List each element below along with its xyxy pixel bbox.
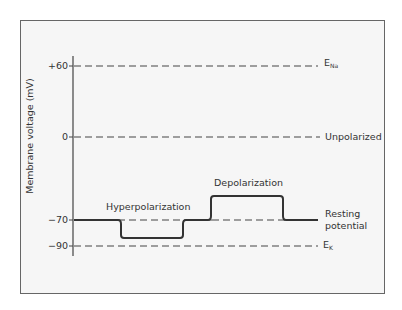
resting-label-line1: Resting — [325, 209, 360, 219]
tick-label-plus60: +60 — [38, 61, 68, 71]
tick-label-0: 0 — [38, 132, 68, 142]
hyperpolarization-label: Hyperpolarization — [106, 202, 190, 212]
voltage-plot — [0, 0, 402, 310]
ek-label: EK — [323, 240, 333, 251]
depolarization-label: Depolarization — [214, 178, 283, 188]
tick-label-minus90: −90 — [38, 241, 68, 251]
y-axis-label: Membrane voltage (mV) — [24, 78, 35, 194]
ena-label: ENa — [324, 58, 338, 69]
resting-label-line2: potential — [325, 221, 367, 231]
tick-label-minus70: −70 — [38, 215, 68, 225]
unpolarized-label: Unpolarized — [325, 132, 382, 142]
